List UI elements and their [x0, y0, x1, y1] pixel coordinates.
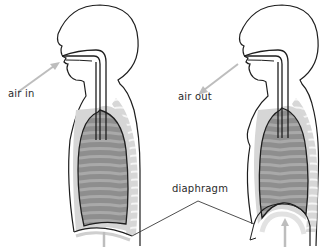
breathing-diagram: air in air out diaphragm	[0, 0, 324, 247]
diagram-canvas	[0, 0, 324, 247]
diaphragm-label: diaphragm	[172, 183, 228, 194]
air-in-label: air in	[8, 88, 35, 99]
inhale-figure	[18, 5, 140, 247]
air-out-label: air out	[178, 91, 212, 102]
exhale-figure	[198, 5, 319, 247]
lung-left	[78, 110, 128, 226]
up-arrowhead	[281, 218, 289, 226]
diaphragm-leader-lines	[132, 201, 254, 236]
